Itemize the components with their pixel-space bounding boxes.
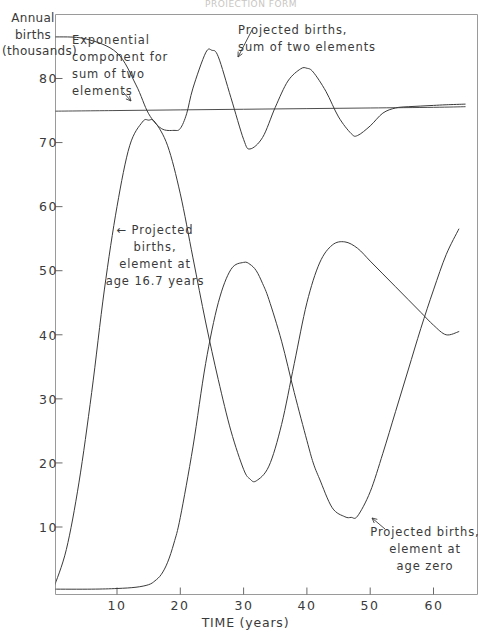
y-tick-label-80: 80 [18,71,58,86]
annotation-sum-of-two-elements: Projected births, sum of two elements [238,22,438,56]
y-tick-label-20: 20 [18,456,58,471]
axis-ticks [56,79,434,595]
y-tick-label-10: 10 [18,520,58,535]
annotation-element-age-16-7: ← Projected births, element at age 16.7 … [95,222,215,290]
x-tick-label-20: 20 [163,598,197,613]
y-axis-title-line-3: (thousands) [2,43,64,60]
annotation-element-age-zero: Projected births, element at age zero [366,524,484,575]
x-tick-label-40: 40 [290,598,324,613]
y-axis-title-line-1: Annual [2,10,64,27]
x-tick-label-10: 10 [100,598,134,613]
x-tick-label-30: 30 [227,598,261,613]
y-tick-label-60: 60 [18,199,58,214]
y-tick-label-50: 50 [18,263,58,278]
x-tick-label-60: 60 [417,598,451,613]
y-tick-label-40: 40 [18,328,58,343]
y-tick-label-30: 30 [18,392,58,407]
page-title-partial: PROJECTION FORM [205,0,380,7]
x-axis-title: TIME (years) [0,615,491,630]
annotation-exponential-component: Exponential component for sum of two ele… [72,32,192,100]
series-line-2 [54,120,459,588]
plot-frame [56,15,478,595]
y-axis-title: Annual births (thousands) [2,10,64,60]
x-tick-label-50: 50 [353,598,387,613]
y-axis-title-line-2: births [2,27,64,44]
figure-chart: PROJECTION FORM Annual births (thousands… [0,0,491,636]
y-tick-label-70: 70 [18,135,58,150]
series-group [54,37,465,589]
